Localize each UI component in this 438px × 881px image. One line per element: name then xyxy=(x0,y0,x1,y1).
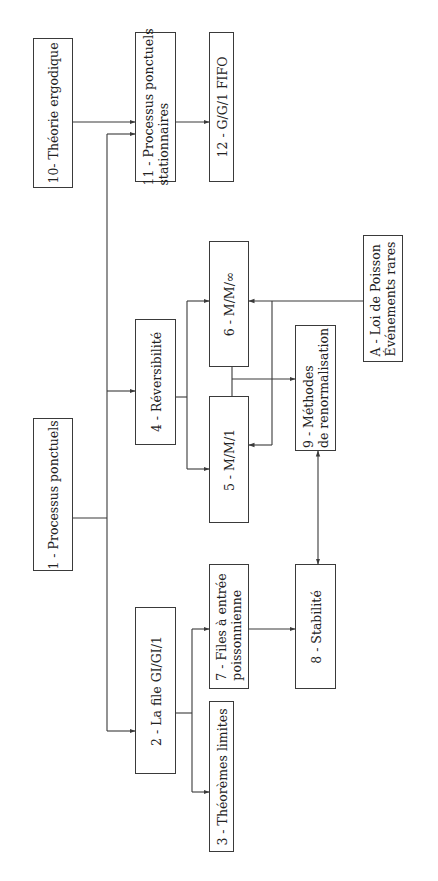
node-label: 10- Théorie ergodique xyxy=(46,42,61,183)
node-label: A - Loi de Poisson xyxy=(368,241,383,356)
node-label: 11 - Processus ponctuels xyxy=(141,28,156,185)
node-A-loi-de-poisson: A - Loi de PoissonÉvénements rares xyxy=(363,235,403,362)
node-label: 12 - G/G/1 FIFO xyxy=(214,57,229,158)
node-8-stabilite: 8 - Stabilité xyxy=(295,564,336,689)
node-10-theorie-ergodique: 10- Théorie ergodique xyxy=(33,38,73,188)
node-5-mm1: 5 - M/M/1 xyxy=(209,396,249,523)
node-1-processus-ponctuels: 1 - Processus ponctuels xyxy=(33,418,73,571)
node-9-methodes-renormalisation: 9 - Méthodesde renormalisation xyxy=(295,325,336,451)
node-label-line2: de renormalisation xyxy=(316,328,331,448)
dependency-diagram: 10- Théorie ergodique 11 - Processus pon… xyxy=(0,0,438,881)
node-11-processus-stationnaires: 11 - Processus ponctuelsstationnaires xyxy=(135,32,176,182)
node-label: 3 - Théorèmes limites xyxy=(214,708,229,845)
node-label: 2 - La file GI/GI/1 xyxy=(148,636,163,746)
node-label: 1 - Processus ponctuels xyxy=(46,420,61,569)
node-7-files-entree-poissonnienne: 7 - Files à entréepoissonnienne xyxy=(209,564,249,689)
node-label: 9 - Méthodes xyxy=(301,328,316,448)
node-label: 6 - M/M/∞ xyxy=(222,272,237,337)
node-label: 5 - M/M/1 xyxy=(222,428,237,490)
node-label-line2: poissonnienne xyxy=(229,573,244,680)
node-label: 7 - Files à entrée xyxy=(214,573,229,680)
node-label: 8 - Stabilité xyxy=(308,590,323,664)
node-label-line2: stationnaires xyxy=(156,28,171,185)
node-2-file-gigi1: 2 - La file GI/GI/1 xyxy=(135,607,176,774)
node-12-gg1-fifo: 12 - G/G/1 FIFO xyxy=(209,32,234,182)
node-6-mm-infinity: 6 - M/M/∞ xyxy=(209,241,249,367)
node-label-line2: Événements rares xyxy=(383,241,398,356)
node-3-theoremes-limites: 3 - Théorèmes limites xyxy=(209,701,234,852)
node-4-reversibilite: 4 - Réversibilité xyxy=(135,319,176,445)
node-label: 4 - Réversibilité xyxy=(148,332,163,432)
